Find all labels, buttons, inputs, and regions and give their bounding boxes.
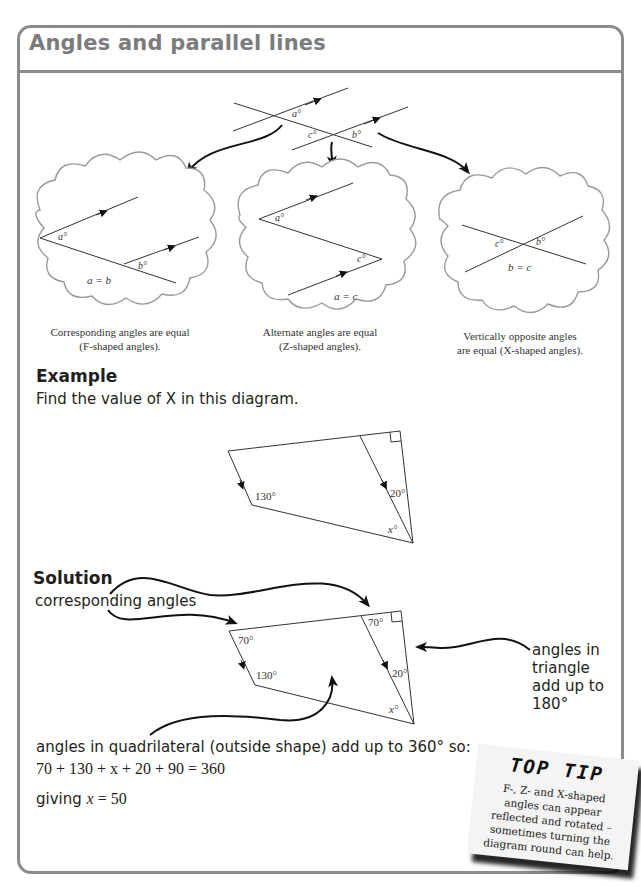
caption-vertically-opposite: Vertically opposite angles are equal (X-…	[430, 329, 610, 357]
annotation-triangle-line3: add up to	[532, 677, 604, 695]
solution-label-70-left: 70°	[238, 634, 253, 646]
annotation-triangle-line4: 180°	[532, 695, 604, 713]
solution-label-20: 20°	[392, 667, 407, 679]
cloud3-label-c: c°	[495, 238, 503, 249]
solution-equation: 70 + 130 + x + 20 + 90 = 360	[36, 760, 225, 778]
caption-corresponding: Corresponding angles are equal (F-shaped…	[30, 325, 210, 353]
top-tip-card: TOP TIP F-, Z- and X-shaped angles can a…	[467, 744, 640, 870]
cloud2-label-c: c°	[357, 253, 365, 264]
cloud3-equation: b = c	[508, 261, 531, 273]
example-prompt: Find the value of X in this diagram.	[36, 390, 299, 408]
cloud1-label-a: a°	[58, 231, 67, 242]
caption-alternate-line2: (Z-shaped angles).	[230, 339, 410, 353]
caption-corresponding-line1: Corresponding angles are equal	[30, 325, 210, 339]
intro-parallel-lines-diagram	[233, 88, 408, 150]
solution-label-70-right: 70°	[368, 616, 383, 628]
cloud-corresponding: a° b° a = b	[36, 152, 216, 305]
cloud3-label-b: b°	[536, 236, 545, 247]
annotation-triangle-line2: triangle	[532, 659, 604, 677]
cloud2-equation: a = c	[334, 290, 357, 302]
caption-alternate-line1: Alternate angles are equal	[230, 325, 410, 339]
cloud-alternate: a° c° a = c	[238, 159, 416, 309]
solution-label-x: x°	[388, 703, 399, 715]
annotation-corresponding-angles: corresponding angles	[35, 592, 196, 610]
quadrilateral-text: angles in quadrilateral (outside shape) …	[36, 738, 471, 756]
arrow-to-vertical	[378, 133, 468, 172]
result-suffix: = 50	[94, 790, 127, 807]
caption-vertical-line2: are equal (X-shaped angles).	[430, 343, 610, 357]
annotation-triangle: angles in triangle add up to 180°	[532, 641, 604, 713]
solution-heading: Solution	[33, 568, 113, 588]
solution-quadrilateral	[229, 611, 414, 724]
arrow-corresponding-left	[108, 610, 235, 623]
intro-label-b: b°	[352, 129, 361, 140]
arrow-to-corresponding	[188, 125, 282, 172]
caption-alternate: Alternate angles are equal (Z-shaped ang…	[230, 325, 410, 353]
example-label-20: 20°	[390, 487, 405, 499]
example-label-x: x°	[387, 523, 398, 535]
example-label-130: 130°	[255, 490, 276, 502]
cloud1-equation: a = b	[87, 274, 111, 286]
annotation-triangle-line1: angles in	[532, 641, 604, 659]
solution-label-130: 130°	[256, 669, 277, 681]
arrow-triangle	[418, 639, 530, 650]
top-tip-body: F-, Z- and X-shaped angles can appear re…	[471, 778, 631, 864]
result-prefix: giving	[36, 790, 87, 808]
intro-label-c: c°	[308, 129, 316, 140]
cloud1-label-b: b°	[138, 260, 147, 271]
cloud-vertically-opposite: c° b° b = c	[439, 167, 610, 312]
cloud2-label-a: a°	[275, 212, 284, 223]
intro-label-a: a°	[292, 108, 301, 119]
example-heading: Example	[36, 366, 117, 386]
example-quadrilateral	[228, 431, 413, 543]
arrow-quadrilateral	[150, 678, 332, 735]
caption-corresponding-line2: (F-shaped angles).	[30, 339, 210, 353]
caption-vertical-line1: Vertically opposite angles	[430, 329, 610, 343]
result-variable: x	[87, 790, 94, 807]
solution-result: giving x = 50	[36, 790, 127, 808]
